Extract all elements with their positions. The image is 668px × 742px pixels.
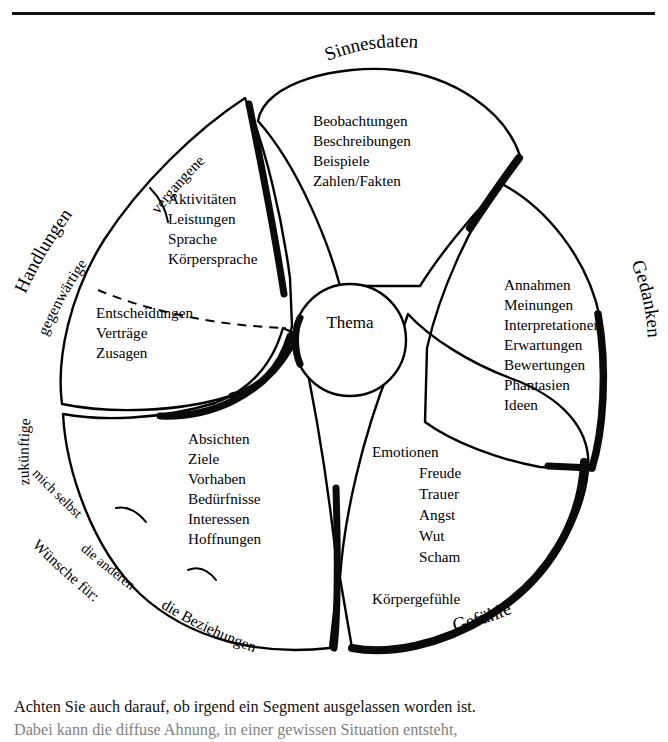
item-wuensche-2: Vorhaben (188, 470, 246, 487)
sublabel-mich-selbst-text: mich selbst (30, 466, 86, 521)
item-handlungen-upper-3: Körpersprache (168, 250, 258, 267)
sublabel-die-beziehungen-text: die Beziehungen (159, 596, 259, 656)
item-gefuehle-0: Emotionen (372, 443, 439, 460)
items-sinnesdaten: Beobachtungen Beschreibungen Beispiele Z… (313, 112, 411, 189)
items-gefuehle: Emotionen Freude Trauer Angst Wut Scham … (372, 443, 461, 607)
item-gefuehle-extra-0: Körpergefühle (372, 590, 461, 607)
item-sinnesdaten-3: Zahlen/Fakten (313, 172, 401, 189)
shadow-edge-sinnesdaten-right (470, 158, 519, 228)
item-gedanken-6: Ideen (504, 396, 538, 413)
item-wuensche-0: Absichten (188, 430, 250, 447)
item-gedanken-3: Erwartungen (504, 336, 583, 353)
item-handlungen-upper-1: Leistungen (168, 210, 236, 227)
item-gedanken-0: Annahmen (504, 276, 571, 293)
tick-wuensche-mich-selbst (116, 508, 146, 522)
five-segment-flower-diagram: Thema Sinnesdaten Gedanken (0, 18, 668, 678)
caption-line-2: Dabei kann die diffuse Ahnung, in einer … (14, 719, 654, 742)
item-gedanken-4: Bewertungen (504, 356, 585, 373)
item-sinnesdaten-0: Beobachtungen (313, 112, 408, 129)
item-handlungen-lower-2: Zusagen (96, 344, 148, 361)
item-sinnesdaten-1: Beschreibungen (313, 132, 411, 149)
sublabel-mich-selbst: mich selbst (30, 466, 86, 521)
petal-wuensche[interactable] (63, 328, 338, 650)
shadow-edge-gedanken-right (592, 314, 603, 468)
shadow-edge-wuensche-right (334, 488, 337, 648)
item-wuensche-4: Interessen (188, 510, 250, 527)
item-handlungen-lower-0: Entscheidungen (96, 304, 193, 321)
item-handlungen-upper-2: Sprache (168, 230, 217, 247)
items-wuensche: Absichten Ziele Vorhaben Bedürfnisse Int… (188, 430, 262, 547)
item-gedanken-1: Meinungen (504, 296, 574, 313)
item-sinnesdaten-2: Beispiele (313, 152, 370, 169)
outer-label-sinnesdaten: Sinnesdaten (321, 30, 419, 65)
sublabel-die-beziehungen: die Beziehungen (159, 596, 259, 656)
caption-line-1: Achten Sie auch darauf, ob irgend ein Se… (14, 696, 654, 719)
item-gefuehle-1: Freude (419, 464, 461, 481)
item-wuensche-3: Bedürfnisse (188, 490, 261, 507)
caption-block: Achten Sie auch darauf, ob irgend ein Se… (14, 696, 654, 742)
item-wuensche-5: Hoffnungen (188, 530, 262, 547)
item-gefuehle-2: Trauer (419, 485, 459, 502)
outer-label-gedanken: Gedanken (628, 257, 665, 339)
center-circle[interactable] (294, 284, 406, 396)
item-gefuehle-5: Scham (419, 548, 461, 565)
item-gefuehle-4: Wut (419, 527, 445, 544)
top-horizontal-rule (12, 12, 655, 15)
items-handlungen-lower: Entscheidungen Verträge Zusagen (96, 304, 193, 361)
outer-label-sinnesdaten-text: Sinnesdaten (321, 30, 419, 65)
items-handlungen-upper: Aktivitäten Leistungen Sprache Körperspr… (168, 190, 258, 267)
outer-label-gedanken-text: Gedanken (628, 257, 665, 339)
item-handlungen-lower-1: Verträge (96, 324, 148, 341)
item-gedanken-2: Interpretationen (504, 316, 601, 333)
item-wuensche-1: Ziele (188, 450, 219, 467)
item-handlungen-upper-0: Aktivitäten (168, 190, 237, 207)
tick-wuensche-die-anderen (188, 568, 216, 580)
item-gefuehle-3: Angst (419, 506, 456, 523)
item-gedanken-5: Phantasien (504, 376, 570, 393)
center-label: Thema (326, 313, 374, 332)
items-gedanken: Annahmen Meinungen Interpretationen Erwa… (504, 276, 601, 413)
